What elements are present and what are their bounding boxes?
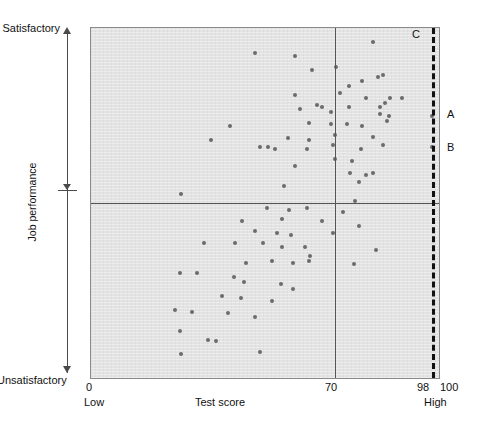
data-point: [357, 224, 361, 228]
y-axis-top-label: Satisfactory: [0, 22, 60, 34]
data-point: [303, 245, 307, 249]
data-point: [305, 147, 309, 151]
data-point: [261, 241, 265, 245]
data-point: [258, 145, 262, 149]
data-point: [352, 262, 356, 266]
data-point: [179, 192, 183, 196]
data-point: [253, 51, 257, 55]
data-point: [293, 164, 297, 168]
data-point: [293, 93, 297, 97]
data-point: [226, 311, 230, 315]
data-point: [364, 96, 368, 100]
annotation-label-b: B: [447, 141, 454, 153]
data-point: [374, 248, 378, 252]
data-point: [298, 107, 302, 111]
data-point: [190, 310, 194, 314]
data-point: [179, 352, 183, 356]
data-point: [378, 105, 382, 109]
data-point: [289, 233, 293, 237]
data-point: [239, 296, 243, 300]
data-point: [280, 245, 284, 249]
data-point: [273, 147, 277, 151]
data-point: [270, 299, 274, 303]
data-point: [310, 68, 314, 72]
data-point: [307, 259, 311, 263]
data-point: [253, 229, 257, 233]
data-point: [371, 40, 375, 44]
data-point: [387, 114, 391, 118]
data-point: [359, 147, 363, 151]
data-point: [347, 84, 351, 88]
x-axis-tick-70: 70: [325, 381, 337, 393]
data-point: [253, 315, 257, 319]
y-axis-arrow-down-icon: [63, 366, 71, 373]
data-point: [347, 105, 351, 109]
y-axis-midpoint-tick: [58, 190, 77, 191]
reference-line-test-cutoff-98: [432, 28, 435, 378]
data-point: [357, 180, 361, 184]
data-point: [329, 110, 333, 114]
data-point: [385, 119, 389, 123]
data-point: [220, 294, 224, 298]
data-point: [360, 124, 364, 128]
data-point: [265, 206, 269, 210]
data-point: [232, 275, 236, 279]
data-point: [173, 308, 177, 312]
annotation-label-c: C: [412, 28, 420, 40]
data-point: [341, 210, 345, 214]
data-point: [315, 103, 319, 107]
x-axis-high-label: High: [424, 396, 447, 408]
data-point: [371, 171, 375, 175]
data-point: [371, 135, 375, 139]
y-axis-arrow-up-icon: [63, 27, 71, 34]
data-point: [307, 121, 311, 125]
data-point: [388, 96, 392, 100]
data-point: [338, 91, 342, 95]
data-point: [228, 124, 232, 128]
x-axis-low-label: Low: [84, 396, 104, 408]
scatter-plot-figure: Satisfactory Unsatisfactory Job performa…: [0, 0, 483, 437]
data-point: [242, 280, 246, 284]
data-point: [320, 105, 324, 109]
x-axis-tick-100: 100: [440, 381, 458, 393]
data-point: [345, 122, 349, 126]
y-axis-line: [67, 33, 68, 373]
data-point: [209, 138, 213, 142]
data-point: [308, 254, 312, 258]
data-point: [348, 171, 352, 175]
data-point: [286, 136, 290, 140]
y-axis-midpoint-arrow-icon: [63, 184, 71, 190]
x-axis-title: Test score: [195, 396, 245, 408]
data-point: [266, 145, 270, 149]
data-point: [206, 338, 210, 342]
reference-line-performance-midline: [91, 203, 439, 204]
data-point: [233, 241, 237, 245]
data-point: [291, 287, 295, 291]
data-point: [287, 208, 291, 212]
y-axis-title: Job performance: [26, 142, 38, 262]
data-point: [383, 101, 387, 105]
data-point: [178, 329, 182, 333]
data-point: [329, 122, 333, 126]
data-point: [282, 184, 286, 188]
data-point: [350, 159, 354, 163]
data-point: [381, 143, 385, 147]
data-point: [195, 271, 199, 275]
data-point: [364, 173, 368, 177]
x-axis-tick-0: 0: [86, 381, 92, 393]
data-point: [378, 112, 382, 116]
data-point: [307, 138, 311, 142]
data-point: [376, 75, 380, 79]
data-point: [381, 73, 385, 77]
data-point: [400, 96, 404, 100]
data-point: [178, 271, 182, 275]
data-point: [291, 261, 295, 265]
data-point: [214, 339, 218, 343]
data-point: [202, 241, 206, 245]
y-axis-bottom-label: Unsatisfactory: [0, 374, 60, 386]
data-point: [305, 206, 309, 210]
data-point: [279, 282, 283, 286]
data-point: [275, 231, 279, 235]
data-point: [270, 259, 274, 263]
data-point: [293, 54, 297, 58]
